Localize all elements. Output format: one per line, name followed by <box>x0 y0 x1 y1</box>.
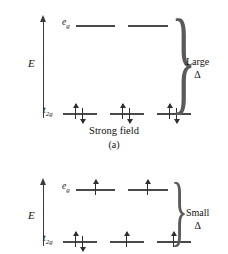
orbital-level-t2g-2-b <box>110 241 144 243</box>
orbital-set-label-t2g-b: t2g <box>43 234 53 246</box>
splitting-magnitude-a: Large Δ <box>186 56 209 81</box>
orbital-set-label-eg-a: eg <box>62 18 70 30</box>
orbital-level-t2g-1-a <box>63 113 97 115</box>
axis-label-energy: E <box>28 58 35 69</box>
electron-arrow-up <box>75 104 76 119</box>
delta-symbol-a: Δ <box>194 69 200 80</box>
electron-arrow-up <box>147 180 148 195</box>
electron-arrow-up <box>169 104 170 119</box>
orbital-level-t2g-1-b <box>63 241 97 243</box>
electron-arrow-up <box>95 180 96 195</box>
electron-arrow-down <box>129 108 130 123</box>
t2g-subscript: 2g <box>46 238 53 246</box>
axis-label-energy: E <box>28 210 35 221</box>
caption-text-a: Strong field <box>89 125 139 136</box>
splitting-diagram-b: E eg t2g } Small Δ <box>0 160 228 246</box>
orbital-level-t2g-2-a <box>110 113 144 115</box>
t2g-subscript: 2g <box>46 110 53 118</box>
electron-arrow-down <box>82 108 83 123</box>
orbital-level-eg-2-b <box>128 189 168 191</box>
caption-subtext-a: (a) <box>0 138 228 151</box>
electron-arrow-up <box>126 232 127 247</box>
axis-shaft <box>43 21 44 118</box>
orbital-set-label-eg-b: eg <box>62 182 70 194</box>
electron-arrow-up <box>75 232 76 247</box>
delta-symbol-b: Δ <box>194 220 200 231</box>
orbital-set-label-t2g-a: t2g <box>43 106 53 118</box>
splitting-word-a: Large <box>186 56 209 67</box>
splitting-magnitude-b: Small Δ <box>186 207 209 232</box>
splitting-diagram-a: E eg t2g } Large Δ Strong field (a) <box>0 0 228 123</box>
electron-arrow-down <box>82 236 83 251</box>
orbital-level-eg-1-a <box>76 25 115 27</box>
orbital-level-eg-2-a <box>128 25 168 27</box>
caption-a: Strong field (a) <box>0 124 228 151</box>
eg-subscript: g <box>66 186 70 194</box>
electron-arrow-up <box>122 104 123 119</box>
splitting-word-b: Small <box>186 207 209 218</box>
eg-subscript: g <box>66 22 70 30</box>
